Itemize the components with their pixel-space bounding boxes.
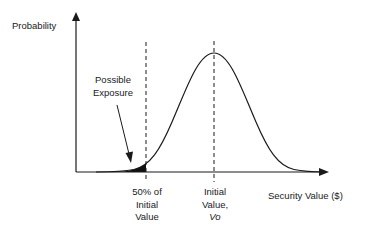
- half-label-line3: Value: [126, 211, 168, 224]
- half-value-label: 50% of Initial Value: [126, 186, 168, 224]
- y-axis-arrow-icon: [72, 12, 80, 21]
- initial-label-line2: Value,: [194, 199, 236, 212]
- x-axis-arrow-icon: [319, 168, 329, 176]
- exposure-pointer-line: [117, 105, 129, 154]
- exposure-label-line2: Exposure: [88, 87, 138, 100]
- initial-label-line1: Initial: [194, 186, 236, 199]
- y-axis-label: Probability: [12, 20, 56, 33]
- half-label-line1: 50% of: [126, 186, 168, 199]
- initial-value-label: Initial Value, Vo: [194, 186, 236, 224]
- initial-label-symbol: Vo: [194, 211, 236, 224]
- exposure-label-line1: Possible: [88, 74, 138, 87]
- exposure-pointer-arrow-icon: [126, 152, 134, 164]
- half-label-line2: Initial: [126, 199, 168, 212]
- possible-exposure-label: Possible Exposure: [88, 74, 138, 99]
- x-axis-label: Security Value ($): [268, 190, 343, 203]
